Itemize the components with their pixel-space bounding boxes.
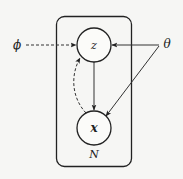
- edge-x-to-z-inference: [74, 58, 86, 113]
- node-x-label: x: [89, 121, 98, 135]
- plate-label: N: [88, 148, 99, 161]
- edge-theta-to-x: [106, 46, 159, 116]
- graphical-model-diagram: z x N ϕ θ: [0, 0, 183, 179]
- param-theta-label: θ: [163, 37, 171, 51]
- node-z-label: z: [90, 39, 97, 52]
- node-x: x: [77, 111, 111, 145]
- node-z: z: [77, 28, 111, 62]
- param-phi-label: ϕ: [13, 38, 21, 52]
